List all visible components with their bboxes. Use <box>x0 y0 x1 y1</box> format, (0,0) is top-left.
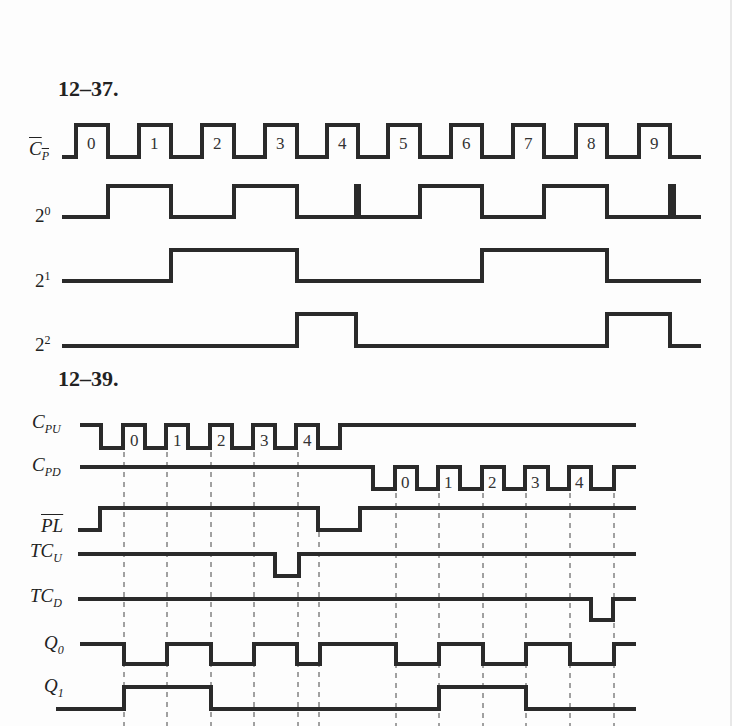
waveform-2-2 <box>62 314 701 346</box>
svg-text:2: 2 <box>213 134 222 153</box>
svg-text:3: 3 <box>260 431 269 450</box>
waveform-tcd <box>78 599 636 620</box>
waveforms: 0 1 2 3 4 5 6 7 8 9 <box>0 0 732 726</box>
svg-text:3: 3 <box>531 473 540 492</box>
waveform-q0 <box>80 644 636 664</box>
waveform-2-1 <box>62 250 701 281</box>
svg-text:4: 4 <box>575 473 584 492</box>
svg-text:8: 8 <box>587 134 596 153</box>
waveform-pl-bar <box>78 508 636 530</box>
svg-text:4: 4 <box>303 431 312 450</box>
svg-text:9: 9 <box>650 134 659 153</box>
svg-text:0: 0 <box>401 473 410 492</box>
svg-text:2: 2 <box>488 473 497 492</box>
svg-text:0: 0 <box>130 431 139 450</box>
dashed-guides <box>124 452 614 726</box>
svg-text:1: 1 <box>150 134 159 153</box>
waveform-2-0 <box>62 186 701 217</box>
svg-text:6: 6 <box>462 134 471 153</box>
svg-text:7: 7 <box>524 134 533 153</box>
timing-diagram-page: 12–37. CP 20 21 22 12–39. CPU CPD PL TCU… <box>0 0 732 726</box>
svg-text:3: 3 <box>276 134 285 153</box>
svg-text:2: 2 <box>217 431 226 450</box>
svg-text:1: 1 <box>444 473 453 492</box>
waveform-cpu <box>80 425 636 448</box>
svg-text:0: 0 <box>87 134 96 153</box>
waveform-cpd <box>80 467 636 489</box>
waveform-tcu <box>78 554 636 576</box>
waveform-q1 <box>56 687 636 709</box>
svg-text:4: 4 <box>338 134 347 153</box>
svg-text:5: 5 <box>399 134 408 153</box>
svg-text:1: 1 <box>173 431 182 450</box>
